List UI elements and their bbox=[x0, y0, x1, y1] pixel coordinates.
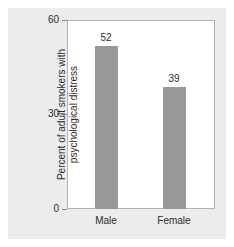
x-label-female: Female bbox=[144, 215, 204, 226]
y-tick-label-30: 30 bbox=[48, 109, 59, 119]
y-tick-60 bbox=[62, 20, 67, 21]
plot-area bbox=[67, 20, 215, 209]
bar-value-male: 52 bbox=[86, 33, 126, 43]
bar-female bbox=[163, 87, 186, 209]
chart-figure: 60 30 0 Percent of adult smokers with ps… bbox=[8, 8, 226, 239]
bar-value-female: 39 bbox=[154, 74, 194, 84]
x-label-male: Male bbox=[76, 215, 136, 226]
y-tick-label-0: 0 bbox=[53, 204, 59, 214]
y-tick-label-60: 60 bbox=[48, 15, 59, 25]
y-tick-30 bbox=[62, 114, 67, 115]
bar-male bbox=[95, 46, 118, 209]
y-tick-0 bbox=[62, 209, 67, 210]
